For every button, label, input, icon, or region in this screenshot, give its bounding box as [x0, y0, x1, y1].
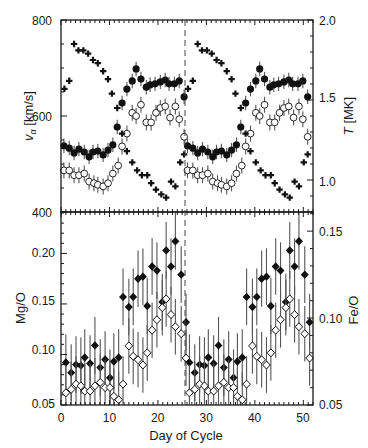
open-diamond-marker — [125, 342, 133, 350]
open-diamond-marker — [143, 349, 151, 357]
tick-lower-left-0.15: 0.15 — [32, 294, 56, 308]
upper-right-axis-label: T [MK] — [341, 97, 356, 135]
cross-marker — [185, 86, 191, 92]
filled-diamond-marker — [171, 237, 179, 245]
open-diamond-marker — [306, 354, 314, 362]
filled-circle-marker — [176, 77, 183, 84]
filled-diamond-marker — [119, 293, 127, 301]
cross-marker — [177, 159, 183, 165]
x-axis-label: Day of Cycle — [149, 428, 223, 443]
tick-upper-right-2.0: 2.0 — [319, 14, 336, 28]
cross-marker — [61, 86, 67, 92]
filled-circle-marker — [237, 123, 244, 130]
open-diamond-marker — [158, 304, 166, 312]
open-circle-marker — [109, 170, 116, 177]
figure: 800 600 400 2.0 1.5 1.0 0.20 0.15 0.10 0… — [0, 0, 368, 448]
filled-diamond-marker — [295, 237, 303, 245]
tick-lower-left-0.05: 0.05 — [32, 397, 56, 411]
tick-lower-left-0.20: 0.20 — [32, 246, 56, 260]
filled-circle-marker — [304, 93, 311, 100]
filled-circle-marker — [242, 99, 249, 106]
tick-x-50: 50 — [296, 411, 310, 425]
filled-circle-marker — [256, 65, 263, 72]
cross-marker — [66, 78, 72, 84]
filled-diamond-marker — [286, 246, 294, 254]
open-diamond-marker — [249, 342, 257, 350]
cross-marker — [194, 41, 200, 47]
cross-marker — [172, 183, 178, 189]
filled-circle-marker — [129, 77, 136, 84]
filled-circle-marker — [104, 146, 111, 153]
filled-circle-marker — [123, 86, 130, 93]
cross-marker — [181, 151, 187, 157]
filled-diamond-marker — [177, 270, 185, 278]
tick-upper-right-1.5: 1.5 — [319, 91, 336, 105]
cross-marker — [129, 159, 135, 165]
open-diamond-marker — [301, 330, 309, 338]
cross-marker — [224, 68, 230, 74]
open-diamond-marker — [272, 326, 280, 334]
open-circle-marker — [296, 103, 303, 110]
filled-diamond-marker — [129, 293, 137, 301]
open-circle-marker — [256, 113, 263, 120]
cross-marker — [232, 90, 238, 96]
filled-diamond-marker — [301, 270, 309, 278]
open-diamond-marker — [119, 380, 127, 388]
cross-marker — [268, 172, 274, 178]
open-circle-marker — [261, 101, 268, 108]
filled-circle-marker — [228, 146, 235, 153]
open-circle-marker — [133, 113, 140, 120]
upper-left-axis-label: vα [km/s] — [21, 91, 38, 141]
cross-marker — [144, 172, 150, 178]
cross-marker — [71, 41, 77, 47]
filled-diamond-marker — [291, 262, 299, 270]
filled-diamond-marker — [243, 293, 251, 301]
cross-marker — [272, 180, 278, 186]
tick-lower-right-0.05: 0.05 — [319, 398, 343, 412]
cross-marker — [296, 183, 302, 189]
filled-circle-marker — [261, 75, 268, 82]
cross-marker — [114, 105, 120, 111]
tick-upper-right-1.0: 1.0 — [319, 175, 336, 189]
cross-marker — [100, 68, 106, 74]
open-circle-marker — [271, 119, 278, 126]
T-unit: [MK] — [341, 97, 356, 127]
cross-marker — [276, 186, 282, 192]
filled-circle-marker — [118, 99, 125, 106]
cross-marker — [153, 186, 159, 192]
tick-lower-right-0.15: 0.15 — [319, 225, 343, 239]
cross-marker — [291, 178, 297, 184]
tick-x-30: 30 — [200, 411, 214, 425]
open-diamond-marker — [243, 380, 251, 388]
filled-diamond-marker — [204, 353, 212, 361]
open-diamond-marker — [177, 330, 185, 338]
cross-marker — [134, 167, 140, 173]
open-circle-marker — [242, 143, 249, 150]
open-diamond-marker — [230, 384, 238, 392]
tick-x-10: 10 — [103, 411, 117, 425]
filled-diamond-marker — [215, 341, 223, 349]
filled-circle-marker — [133, 65, 140, 72]
tick-x-20: 20 — [151, 411, 165, 425]
cross-marker — [253, 159, 259, 165]
cross-marker — [301, 159, 307, 165]
filled-diamond-marker — [182, 318, 190, 326]
tick-x-40: 40 — [248, 411, 262, 425]
tick-upper-left-800: 800 — [32, 14, 52, 28]
open-circle-marker — [81, 170, 88, 177]
cross-marker — [168, 178, 174, 184]
cross-marker — [257, 167, 263, 173]
open-circle-marker — [115, 162, 122, 169]
open-diamond-marker — [277, 316, 285, 324]
open-circle-marker — [176, 116, 183, 123]
open-circle-marker — [138, 101, 145, 108]
cross-marker — [190, 78, 196, 84]
open-circle-marker — [238, 162, 245, 169]
filled-circle-marker — [299, 77, 306, 84]
filled-diamond-marker — [167, 262, 175, 270]
cross-marker — [105, 76, 111, 82]
filled-circle-marker — [114, 123, 121, 130]
cross-marker — [238, 105, 244, 111]
lower-panel — [62, 213, 314, 405]
open-circle-marker — [299, 116, 306, 123]
